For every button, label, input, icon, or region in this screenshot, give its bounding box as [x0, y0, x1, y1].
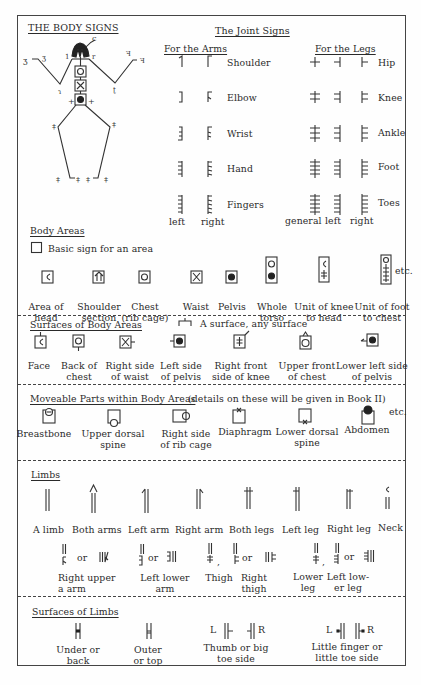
- limb-part-label: Right uppera arm: [58, 572, 116, 594]
- joint-label-wrist: Wrist: [227, 128, 253, 139]
- body-signs-chart: THE BODY SIGNS c ʒ ʒ 1 r ꟻ ꟻ ɿ ʈ +: [17, 15, 406, 666]
- limbs-heading: Limbs: [31, 469, 60, 480]
- limb-label: Left leg: [282, 524, 319, 535]
- joint-label-knee: Knee: [378, 92, 402, 103]
- moveable-label: Abdomen: [342, 424, 392, 435]
- surface-label: Upper frontof chest: [276, 360, 338, 382]
- left-indicator: L: [210, 624, 216, 635]
- limb-surface-label: Under orback: [53, 644, 103, 666]
- right-indicator: R: [258, 624, 265, 635]
- joint-label-elbow: Elbow: [227, 92, 257, 103]
- section-divider: [18, 384, 406, 385]
- basic-area-label: Basic sign for an area: [48, 243, 153, 254]
- limb-part-label: Left low-er leg: [323, 571, 373, 593]
- joint-label-ankle: Ankle: [378, 127, 405, 138]
- limb-surface-label: Thumb or bigtoe side: [200, 642, 272, 664]
- moveable-label: Right sideof rib cage: [156, 428, 216, 450]
- limb-label: A limb: [33, 524, 64, 535]
- surfaces-limbs-heading: Surfaces of Limbs: [32, 606, 119, 617]
- joint-label-foot: Foot: [378, 161, 399, 172]
- joint-label-hip: Hip: [378, 57, 395, 68]
- surface-label: Right sideof waist: [102, 360, 158, 382]
- col-label-right-arm: right: [201, 216, 225, 227]
- limb-label: Both legs: [229, 524, 274, 535]
- limb-label: Neck: [378, 522, 403, 533]
- limb-surface-label: Outeror top: [128, 644, 168, 666]
- left-indicator: L: [326, 624, 332, 635]
- surfaces-body-areas-heading: Surfaces of Body Areas: [30, 319, 142, 330]
- comma-text: ,: [217, 556, 220, 567]
- limb-part-label: Thigh: [199, 572, 239, 583]
- section-divider: [18, 596, 406, 597]
- surface-label: Face: [22, 360, 56, 371]
- moveable-label: Lower dorsalspine: [273, 426, 341, 448]
- surface-note: A surface, any surface: [200, 318, 307, 329]
- joint-label-fingers: Fingers: [227, 199, 264, 210]
- or-text: or: [344, 551, 354, 562]
- or-text: or: [77, 552, 87, 563]
- col-label-right-leg: right: [350, 215, 374, 226]
- surface-pin-icon: [178, 318, 194, 328]
- right-indicator: R: [367, 624, 374, 635]
- area-label: Waist: [176, 301, 216, 312]
- limb-part-label: Rightthigh: [234, 572, 274, 594]
- body-areas-etc: etc.: [395, 265, 413, 276]
- or-text: or: [148, 552, 158, 563]
- basic-area-sign-icon: [31, 242, 43, 254]
- surface-label: Left sideof pelvis: [158, 360, 204, 382]
- surface-label: Right frontside of knee: [208, 360, 274, 382]
- body-area-signs: [18, 256, 407, 296]
- surface-area-signs: [18, 331, 407, 359]
- limb-part-label: Left lowerarm: [133, 572, 197, 594]
- col-label-left-arm: left: [169, 216, 185, 227]
- surface-label: Back ofchest: [58, 360, 100, 382]
- body-areas-heading: Body Areas: [30, 225, 85, 236]
- col-label-left-leg: left: [325, 215, 341, 226]
- limb-label: Left arm: [128, 524, 169, 535]
- limb-label: Right leg: [327, 523, 371, 534]
- limb-label: Right arm: [175, 524, 223, 535]
- col-label-general-leg: general: [285, 215, 322, 226]
- comma-text: ,: [322, 556, 325, 567]
- or-text: or: [242, 552, 252, 563]
- limb-surface-label: Little finger orlittle toe side: [303, 641, 391, 663]
- moveable-label: Upper dorsalspine: [78, 428, 148, 450]
- limb-part-label: Lowerleg: [288, 571, 328, 593]
- moveable-parts-etc: etc.: [389, 406, 407, 417]
- joint-label-hand: Hand: [227, 163, 253, 174]
- limb-signs: [18, 481, 407, 517]
- limb-label: Both arms: [72, 524, 122, 535]
- moveable-parts-note: (details on these will be given in Book …: [188, 393, 386, 404]
- moveable-label: Breastbone: [14, 428, 74, 439]
- surface-label: Lower left sideof pelvis: [336, 360, 408, 382]
- area-label: Unit of footto chest: [352, 301, 412, 323]
- section-divider: [18, 315, 406, 316]
- moveable-parts-heading: Moveable Parts within Body Areas: [30, 393, 195, 404]
- moveable-label: Diaphragm: [214, 426, 276, 437]
- joint-label-shoulder: Shoulder: [227, 57, 271, 68]
- area-label: Pelvis: [212, 301, 252, 312]
- joint-label-toes: Toes: [378, 197, 400, 208]
- joint-signs-glyphs: [18, 16, 407, 231]
- section-divider: [18, 460, 406, 461]
